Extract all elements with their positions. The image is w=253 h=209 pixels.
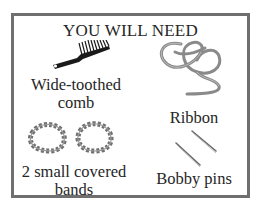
comb-label-line2: comb (26, 94, 126, 112)
bands-label-line2: bands (14, 181, 134, 199)
ribbon-icon (153, 38, 233, 100)
ribbon-label-line1: Ribbon (144, 109, 244, 127)
bobby-pins-label-line1: Bobby pins (144, 170, 244, 188)
bands-label-line1: 2 small covered (14, 163, 134, 181)
ribbon-label: Ribbon (144, 109, 244, 127)
bands-label: 2 small covered bands (14, 163, 134, 199)
supplies-card: YOU WILL NEED Wide-toothed comb (11, 13, 250, 198)
bobby-pins-label: Bobby pins (144, 170, 244, 188)
hair-band-icon (24, 119, 118, 157)
comb-label-line1: Wide-toothed (26, 76, 126, 94)
bobby-pin-icon (172, 129, 222, 169)
comb-label: Wide-toothed comb (26, 76, 126, 112)
comb-icon (49, 40, 111, 70)
